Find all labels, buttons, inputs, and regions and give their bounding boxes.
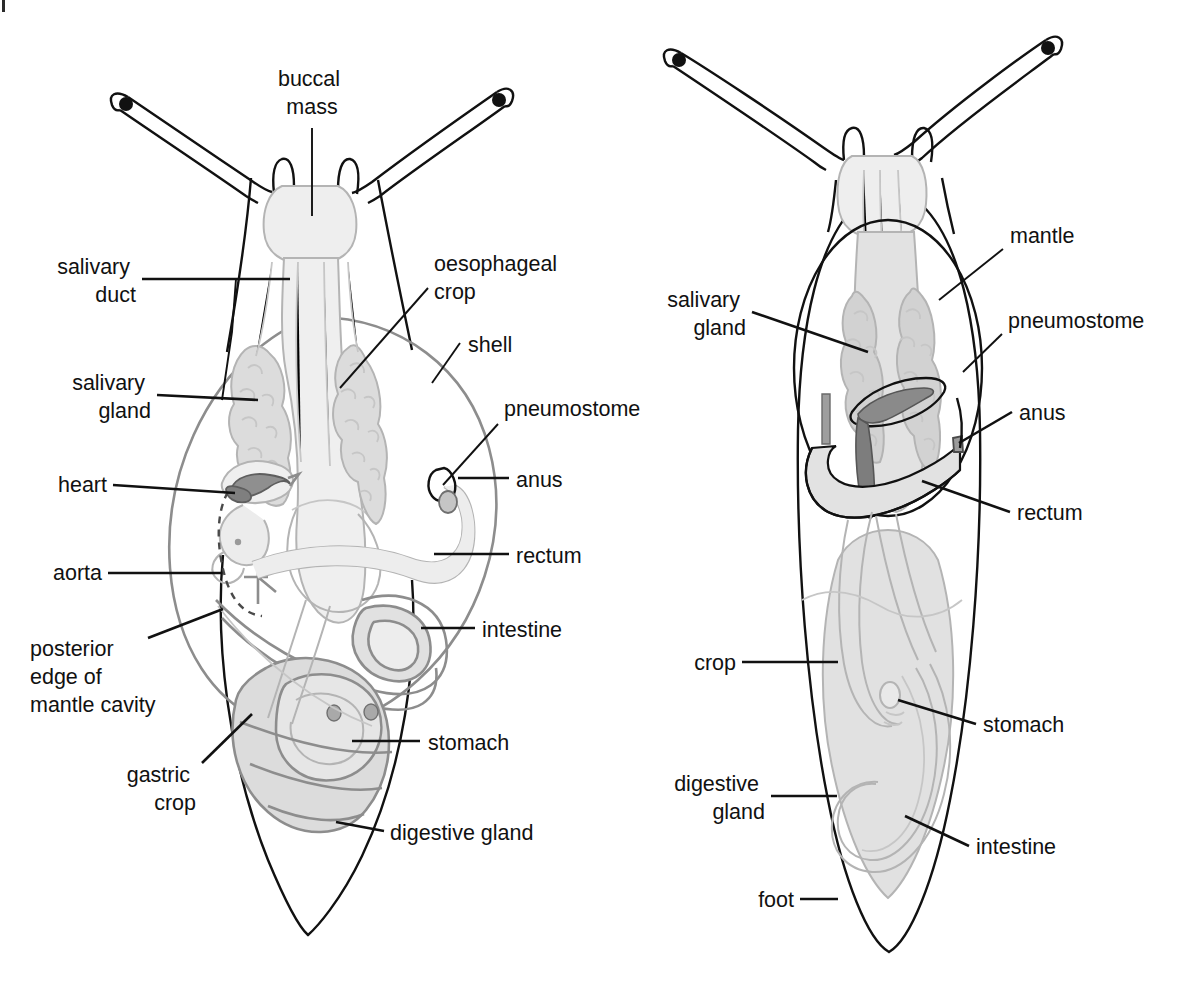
label-slug-digestive-gland: digestive gland: [674, 772, 765, 824]
anatomy-diagram: buccal mass salivary duct salivary gland…: [0, 0, 1178, 992]
label-posterior-edge-of-mantle-cavity: posterior edge of mantle cavity: [30, 637, 156, 717]
label-slug-anus: anus: [1019, 401, 1066, 425]
snail-anus: [439, 491, 457, 513]
label-buccal-mass: buccal mass: [278, 67, 346, 119]
label-salivary-duct: salivary duct: [57, 255, 136, 307]
label-intestine: intestine: [482, 618, 562, 642]
label-gastric-crop: gastric crop: [127, 763, 196, 815]
snail-aorta: [220, 505, 269, 565]
label-salivary-gland: salivary gland: [72, 371, 151, 423]
label-slug-pneumostome: pneumostome: [1008, 309, 1144, 333]
snail-aorta-dot: [235, 539, 241, 545]
slug-tentacle-left: [681, 53, 844, 160]
label-pneumostome: pneumostome: [504, 397, 640, 421]
label-oesophageal-crop: oesophageal crop: [434, 252, 563, 304]
label-slug-stomach: stomach: [983, 713, 1064, 737]
label-rectum: rectum: [516, 544, 582, 568]
snail-tentacle-right-b: [368, 106, 505, 203]
slug-tentacle-right: [894, 40, 1046, 155]
snail-eye-left: [119, 97, 133, 111]
slug-neck-right: [942, 178, 954, 234]
slug-eye-left: [672, 53, 686, 67]
snail-tentacle-left: [128, 97, 272, 192]
snail-tentacle-left-b: [120, 110, 258, 203]
snail-salivary-duct-right: [348, 262, 358, 352]
label-heart: heart: [58, 473, 107, 497]
label-shell: shell: [468, 333, 512, 357]
leader-oesophageal-crop: [340, 288, 428, 388]
snail-stomach-duct-b: [364, 704, 378, 720]
slug-eye-right: [1041, 41, 1055, 55]
label-slug-crop: crop: [694, 651, 736, 675]
snail-eye-right: [492, 93, 506, 107]
snail-tentacle-right: [352, 92, 497, 193]
snail-salivary-duct-left: [256, 262, 272, 356]
label-slug-mantle: mantle: [1010, 224, 1075, 248]
leader-slug-anus: [959, 412, 1012, 443]
slug-stomach: [880, 682, 900, 708]
leader-shell: [432, 343, 460, 383]
snail-bodywall-left: [227, 178, 251, 352]
label-digestive-gland: digestive gland: [390, 821, 533, 845]
slug-neck-left: [828, 180, 836, 232]
figure-canvas: buccal mass salivary duct salivary gland…: [0, 0, 1178, 992]
label-anus: anus: [516, 468, 563, 492]
label-slug-salivary-gland: salivary gland: [667, 288, 746, 340]
snail-buccal-mass: [264, 186, 357, 265]
label-stomach: stomach: [428, 731, 509, 755]
label-slug-intestine: intestine: [976, 835, 1056, 859]
label-slug-foot: foot: [758, 888, 794, 912]
leader-posterior-edge: [148, 609, 223, 638]
slug-vessel-stub: [822, 394, 830, 444]
label-slug-rectum: rectum: [1017, 501, 1083, 525]
slug-tentacle-left-b: [673, 66, 826, 170]
label-aorta: aorta: [53, 561, 102, 585]
